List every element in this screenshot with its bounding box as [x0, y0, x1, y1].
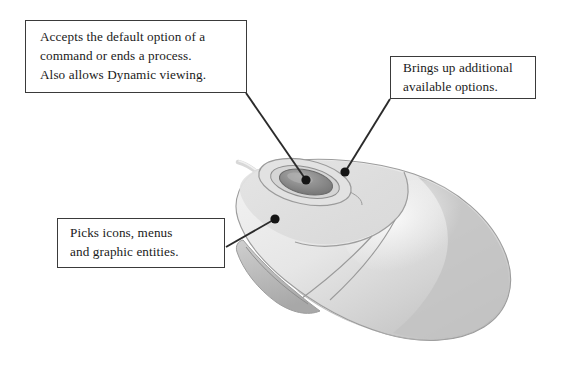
callout-pick-button: Picks icons, menus and graphic entities.	[57, 218, 225, 268]
callout-primary-line-1: Accepts the default option of a	[40, 28, 246, 47]
leader-secondary-dot	[340, 167, 349, 176]
leader-primary-dot	[301, 175, 310, 184]
mouse-diagram-figure: Accepts the default option of a command …	[0, 0, 566, 368]
callout-pick-line-1: Picks icons, menus	[70, 224, 224, 243]
callout-secondary-line-2: available options.	[403, 78, 535, 97]
callout-secondary-button: Brings up additional available options.	[390, 56, 536, 99]
mouse-body-group	[236, 151, 511, 341]
callout-primary-line-2: command or ends a process.	[40, 47, 246, 66]
leader-pick-dot	[270, 214, 279, 223]
leader-secondary-line	[345, 99, 390, 172]
callout-pick-line-2: and graphic entities.	[70, 243, 224, 262]
callout-primary-line-3: Also allows Dynamic viewing.	[40, 66, 246, 85]
callout-secondary-line-1: Brings up additional	[403, 59, 535, 78]
callout-primary-button: Accepts the default option of a command …	[25, 20, 247, 93]
